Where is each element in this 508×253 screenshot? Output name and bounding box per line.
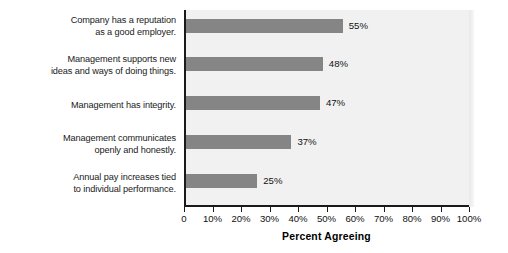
bar-annual-pay-increases (186, 174, 257, 188)
category-label-3-line2: openly and honestly. (0, 145, 176, 157)
bar-communicates-openly (186, 135, 291, 149)
category-label-0-line1: Company has a reputation (0, 15, 176, 27)
bar-value-label-4: 25% (263, 174, 282, 188)
x-tick-label-50%: 50% (317, 213, 336, 224)
plot-area: 55% 48% 47% 37% 25% (184, 10, 469, 207)
x-tick-label-100%: 100% (457, 213, 482, 224)
x-tick-50% (327, 207, 328, 212)
category-label-1-line2: ideas and ways of doing things. (0, 66, 176, 78)
x-tick-label-20%: 20% (231, 213, 250, 224)
category-label-4-line1: Annual pay increases tied (0, 172, 176, 184)
category-label-2-line1: Management has integrity. (0, 100, 176, 112)
x-tick-70% (384, 207, 385, 212)
bar-company-reputation (186, 19, 343, 33)
plot-plate-edge (469, 10, 474, 207)
category-label-2: Management has integrity. (0, 100, 176, 112)
x-tick-0 (184, 207, 185, 212)
x-tick-label-90%: 90% (431, 213, 450, 224)
category-label-0: Company has a reputation as a good emplo… (0, 15, 176, 38)
bar-supports-new-ideas (186, 57, 323, 71)
x-tick-60% (355, 207, 356, 212)
bar-value-label-1: 48% (329, 57, 348, 71)
x-tick-80% (412, 207, 413, 212)
x-tick-label-0: 0 (181, 213, 186, 224)
category-label-1: Management supports new ideas and ways o… (0, 54, 176, 77)
bar-value-label-3: 37% (297, 135, 316, 149)
x-tick-label-80%: 80% (402, 213, 421, 224)
bar-value-label-2: 47% (326, 96, 345, 110)
bar-management-integrity (186, 96, 320, 110)
x-tick-label-40%: 40% (288, 213, 307, 224)
x-axis-title: Percent Agreeing (184, 231, 469, 242)
bar-value-label-0: 55% (349, 19, 368, 33)
x-tick-label-10%: 10% (203, 213, 222, 224)
category-label-3: Management communicates openly and hones… (0, 133, 176, 156)
x-tick-label-30%: 30% (260, 213, 279, 224)
bar-chart-figure: Company has a reputation as a good emplo… (0, 0, 508, 253)
x-tick-100% (469, 207, 470, 212)
x-tick-10% (213, 207, 214, 212)
category-label-1-line1: Management supports new (0, 54, 176, 66)
x-tick-label-60%: 60% (345, 213, 364, 224)
x-tick-30% (270, 207, 271, 212)
category-label-4: Annual pay increases tied to individual … (0, 172, 176, 195)
x-tick-90% (441, 207, 442, 212)
x-tick-20% (241, 207, 242, 212)
category-label-4-line2: to individual performance. (0, 184, 176, 196)
x-tick-40% (298, 207, 299, 212)
category-axis-labels: Company has a reputation as a good emplo… (0, 10, 180, 207)
category-label-3-line1: Management communicates (0, 133, 176, 145)
x-tick-label-70%: 70% (374, 213, 393, 224)
category-label-0-line2: as a good employer. (0, 27, 176, 39)
